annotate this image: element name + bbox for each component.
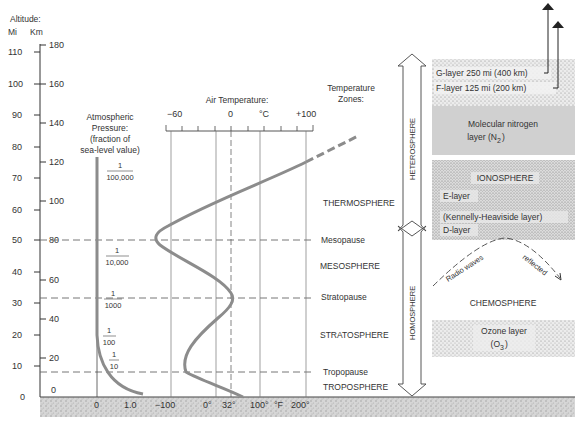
km-tick-label: 0	[51, 385, 56, 395]
temperature-title: Air Temperature:	[206, 95, 269, 105]
zone-troposphere: TROPOSPHERE	[323, 382, 389, 392]
atmosphere-diagram: Altitude: Mi Km 110 100 90 80 70 60 50 4…	[0, 0, 575, 424]
zone-mesopause: Mesopause	[321, 235, 365, 245]
celsius-minus60: −60	[167, 109, 182, 119]
ozone-subscript: 3	[500, 344, 504, 351]
g-layer-label: G-layer 250 mi (400 km)	[436, 68, 528, 78]
atmospheric-layers: G-layer 250 mi (400 km) F-layer 125 mi (…	[432, 3, 575, 357]
zones-title-2: Zones:	[338, 94, 364, 104]
km-tick-label: 40	[49, 314, 59, 324]
svg-text:1: 1	[107, 326, 111, 335]
svg-text:1: 1	[118, 161, 122, 170]
mi-tick-label: 60	[12, 205, 22, 215]
km-tick-label: 100	[49, 196, 64, 206]
temperature-zones: Temperature Zones: THERMOSPHERE Mesopaus…	[320, 83, 395, 392]
heterosphere-label: HETEROSPHERE	[408, 118, 417, 180]
mi-tick-label: 20	[12, 330, 22, 340]
fahrenheit-0: 0°	[203, 400, 212, 410]
nitrogen-close: )	[502, 132, 505, 142]
composition-arrows: HETEROSPHERE HOMOSPHERE	[398, 54, 426, 396]
fahrenheit-100: 100°	[250, 400, 269, 410]
svg-text:1: 1	[112, 350, 116, 359]
altitude-axis: Altitude: Mi Km 110 100 90 80 70 60 50 4…	[8, 14, 64, 402]
nitrogen-label-1: Molecular nitrogen	[468, 119, 538, 129]
kennelly-heaviside-label: (Kennelly-Heaviside layer)	[443, 212, 542, 222]
mi-tick-label: 30	[12, 298, 22, 308]
nitrogen-band	[432, 106, 575, 155]
mi-ticks: 110 100 90 80 70 60 50 40 30 20 10 0	[8, 47, 40, 402]
altitude-title: Altitude:	[10, 14, 41, 24]
svg-text:10,000: 10,000	[106, 258, 129, 267]
fahrenheit-unit: °F	[274, 400, 284, 410]
svg-text:1000: 1000	[105, 301, 122, 310]
nitrogen-label-2: layer (N	[467, 132, 497, 142]
ozone-label-2: (O	[491, 339, 501, 349]
ozone-label-1: Ozone layer	[481, 326, 527, 336]
svg-text:10: 10	[110, 362, 118, 371]
zone-stratopause: Stratopause	[321, 292, 367, 302]
svg-text:1: 1	[111, 289, 115, 298]
pressure-fraction-4: 1 100	[103, 326, 116, 347]
chemosphere-label: CHEMOSPHERE	[470, 298, 537, 308]
f-layer-label: F-layer 125 mi (200 km)	[436, 83, 526, 93]
pressure-section: Atmospheric Pressure: (fraction of sea-l…	[80, 112, 143, 410]
g-layer-arrowhead	[542, 3, 554, 10]
mi-tick-label: 10	[12, 361, 22, 371]
ionosphere-label: IONOSPHERE	[477, 173, 534, 183]
pressure-title-1: Atmospheric	[86, 112, 134, 122]
temperature-curve-extrapolated	[306, 136, 358, 162]
mi-tick-label: 70	[12, 173, 22, 183]
celsius-unit: °C	[259, 109, 270, 119]
mi-unit-label: Mi	[8, 27, 17, 37]
mi-tick-label: 80	[12, 142, 22, 152]
d-layer-label: D-layer	[443, 225, 471, 235]
nitrogen-subscript: 2	[497, 137, 501, 144]
ozone-close: )	[505, 339, 508, 349]
pressure-title-2: Pressure:	[92, 123, 128, 133]
mi-tick-label: 90	[12, 110, 22, 120]
mi-tick-label: 50	[12, 235, 22, 245]
km-tick-label: 120	[49, 157, 64, 167]
boundary-lines	[40, 240, 312, 372]
km-ticks: 180 160 140 120 100 80 60 40 20 0	[40, 40, 64, 395]
pressure-axis-1: 1.0	[124, 400, 137, 410]
temperature-section: Air Temperature: −60 0 °C +100	[155, 95, 358, 410]
km-unit-label: Km	[30, 27, 43, 37]
pressure-fraction-5: 1 10	[109, 350, 119, 371]
radio-wave-arrowhead	[555, 273, 561, 280]
pressure-fraction-2: 1 10,000	[106, 246, 129, 267]
mi-tick-label: 40	[12, 267, 22, 277]
f-layer-arrowhead	[552, 21, 564, 28]
reflected-label: reflected	[521, 252, 549, 277]
celsius-0: 0	[228, 109, 233, 119]
e-layer-label: E-layer	[443, 191, 470, 201]
zone-mesosphere: MESOSPHERE	[320, 261, 380, 271]
svg-text:100,000: 100,000	[106, 173, 133, 182]
homosphere-label: HOMOSPHERE	[408, 286, 417, 340]
km-tick-label: 180	[49, 40, 64, 50]
mi-tick-label: 0	[20, 392, 25, 402]
pressure-title-4: sea-level value)	[80, 145, 140, 155]
celsius-plus100: +100	[296, 109, 316, 119]
svg-text:100: 100	[103, 338, 116, 347]
mi-tick-label: 100	[8, 79, 23, 89]
pressure-curve	[97, 157, 143, 394]
zone-tropopause: Tropopause	[323, 367, 368, 377]
km-tick-label: 20	[49, 353, 59, 363]
pressure-fraction-3: 1 1000	[104, 289, 122, 310]
km-tick-label: 140	[49, 118, 64, 128]
radio-waves-label: Radio waves	[444, 253, 485, 284]
zone-stratosphere: STRATOSPHERE	[320, 330, 389, 340]
km-tick-label: 60	[49, 275, 59, 285]
pressure-fraction-1: 1 100,000	[106, 161, 133, 182]
km-tick-label: 160	[49, 79, 64, 89]
svg-text:1: 1	[115, 246, 119, 255]
fahrenheit-32: 32°	[222, 400, 236, 410]
mi-tick-label: 110	[8, 47, 22, 57]
zone-thermosphere: THERMOSPHERE	[323, 198, 395, 208]
fahrenheit-minus100: −100	[155, 400, 175, 410]
pressure-title-3: (fraction of	[90, 134, 131, 144]
pressure-axis-0: 0	[94, 400, 99, 410]
zones-title-1: Temperature	[327, 83, 375, 93]
fahrenheit-200: 200°	[291, 400, 310, 410]
